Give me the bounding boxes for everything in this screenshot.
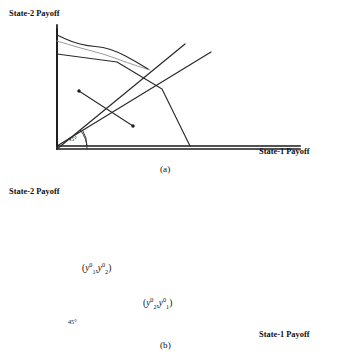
panel-b-45-degree-line [57,44,185,149]
panel-b-angle-label: 45° [68,319,77,325]
panel-b-point-dot-2 [131,124,134,127]
panel-b-angle-arc [80,130,87,149]
figure-root: State-2 Payoff State-1 Payoff 45° (a) St… [0,0,341,364]
panel-b-frontier-curve [57,35,148,69]
panel-b-frontier-curve-faint [57,41,150,70]
panel-b-x-axis-label: State-1 Payoff [259,331,309,339]
panel-b-caption: (b) [160,341,171,350]
panel-b-canvas [0,0,341,184]
panel-b-y-axis-label: State-2 Payoff [9,188,59,196]
panel-b-point-label-y1-y2: (y01,y02) [82,262,111,275]
panel-b: State-2 Payoff State-1 Payoff 45° (y01,y… [0,180,341,364]
panel-b-point-dot-1 [77,89,80,92]
panel-b-point-label-y2-y1: (y02,y01) [143,297,172,310]
panel-b-budget-line [79,91,133,126]
